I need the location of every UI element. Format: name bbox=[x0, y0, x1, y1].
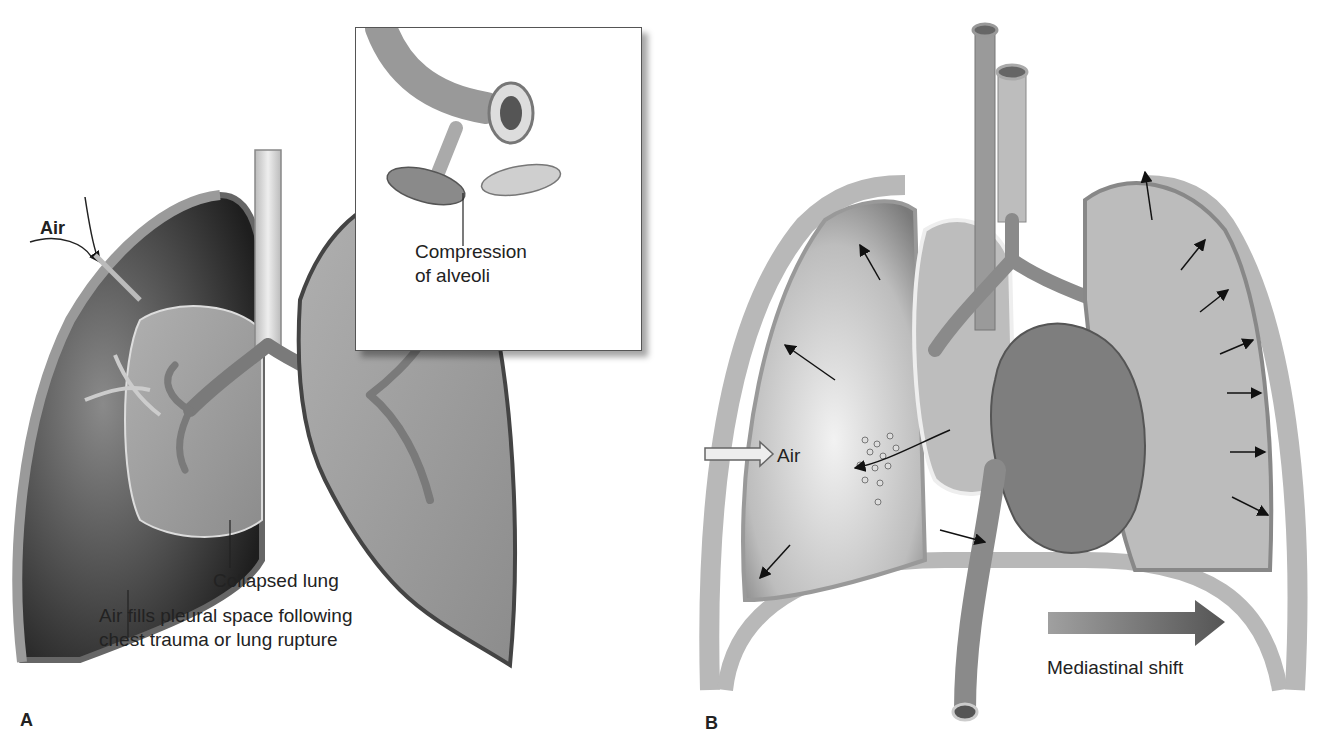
alveoli-inset bbox=[355, 27, 642, 351]
mediastinal-shift-label: Mediastinal shift bbox=[1047, 656, 1183, 680]
pleural-space-label-line2: chest trauma or lung rupture bbox=[99, 628, 338, 652]
panel-letter-a: A bbox=[20, 710, 33, 731]
air-inlet-label: Air bbox=[777, 444, 800, 468]
panel-b-illustration bbox=[665, 0, 1330, 742]
compression-label-line2: of alveoli bbox=[415, 264, 490, 288]
collapsed-lung-label: Collapsed lung bbox=[213, 569, 339, 593]
mediastinal-shift-arrow-icon bbox=[1048, 600, 1225, 646]
pleural-space-label-line1: Air fills pleural space following bbox=[99, 604, 352, 628]
panel-b-tension-pneumothorax: Air Mediastinal shift B bbox=[665, 0, 1330, 742]
panel-a-pneumothorax: Air Compression of alveoli Collapsed lun… bbox=[0, 0, 665, 742]
bronchiole-illustration bbox=[356, 28, 641, 350]
air-entry-label: Air bbox=[40, 218, 65, 239]
panel-letter-b: B bbox=[705, 713, 718, 734]
compression-label-line1: Compression bbox=[415, 240, 527, 264]
